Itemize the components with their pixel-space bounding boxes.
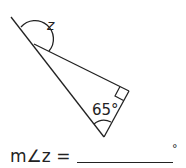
angle-z-label: z	[47, 18, 54, 32]
right-angle-marker	[115, 87, 124, 101]
extended-side-line	[11, 17, 104, 137]
answer-prefix: m∠z =	[10, 146, 70, 166]
triangle-side-top	[34, 44, 129, 91]
angle-65-label: 65°	[92, 103, 119, 118]
degree-symbol: °	[172, 143, 178, 154]
answer-blank[interactable]	[77, 161, 173, 163]
angle-65-arc	[94, 120, 111, 124]
triangle-diagram	[0, 0, 186, 168]
answer-line: m∠z =	[10, 146, 173, 166]
